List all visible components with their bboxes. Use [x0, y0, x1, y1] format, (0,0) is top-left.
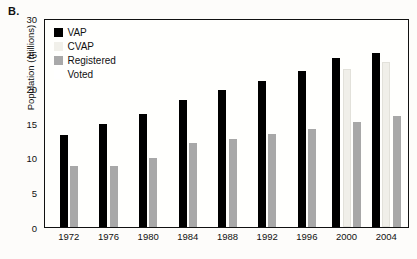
bar-registered-1996 [308, 129, 316, 227]
bar-registered-1980 [149, 158, 157, 227]
y-tick-label: 15 [0, 118, 44, 129]
legend-item-vap: VAP [54, 26, 116, 39]
bar-vap-2004 [372, 53, 380, 227]
bar-registered-1992 [268, 134, 276, 227]
y-tick-label: 5 [0, 188, 44, 199]
legend-label: Registered [68, 55, 116, 66]
x-tick-label: 1992 [257, 231, 278, 242]
x-tick-label: 2004 [376, 231, 397, 242]
x-tick-label: 1972 [58, 231, 79, 242]
legend-label: VAP [68, 27, 87, 38]
bar-group [287, 20, 327, 227]
bar-registered-2004 [393, 116, 401, 227]
bar-vap-1976 [99, 124, 107, 227]
legend-item-registered: Registered [54, 54, 116, 67]
chart-legend: VAPCVAPRegisteredVoted [54, 26, 116, 81]
bar-vap-1988 [218, 90, 226, 227]
bar-group [366, 20, 406, 227]
legend-label: Voted [68, 69, 94, 80]
bar-group [247, 20, 287, 227]
legend-label: CVAP [68, 41, 95, 52]
x-tick-label: 1996 [296, 231, 317, 242]
y-tick-label: 0 [0, 223, 44, 234]
y-tick-label: 10 [0, 153, 44, 164]
bar-vap-1980 [139, 114, 147, 227]
x-tick-label: 1988 [217, 231, 238, 242]
bar-cvap-2004 [382, 62, 390, 227]
bar-vap-1996 [298, 71, 306, 227]
x-tick-label: 1984 [177, 231, 198, 242]
bar-vap-2000 [332, 58, 340, 227]
legend-swatch-voted-icon [54, 70, 63, 79]
bar-group [208, 20, 248, 227]
x-tick-label: 1980 [138, 231, 159, 242]
bar-vap-1992 [258, 81, 266, 227]
legend-swatch-registered-icon [54, 56, 63, 65]
y-tick-label: 30 [0, 14, 44, 25]
bar-group [168, 20, 208, 227]
figure-panel-b: B. Population (millions) 051015202530 19… [0, 0, 417, 259]
bar-registered-1984 [189, 143, 197, 227]
bar-registered-1976 [110, 166, 118, 227]
bar-registered-1972 [70, 166, 78, 227]
legend-item-voted: Voted [54, 68, 116, 81]
legend-item-cvap: CVAP [54, 40, 116, 53]
bar-vap-1984 [179, 100, 187, 227]
y-tick-label: 25 [0, 48, 44, 59]
bar-group [327, 20, 367, 227]
bar-group [128, 20, 168, 227]
bar-cvap-2000 [343, 69, 351, 227]
x-tick-label: 2000 [336, 231, 357, 242]
bar-registered-1988 [229, 139, 237, 227]
bar-registered-2000 [353, 122, 361, 227]
x-tick-label: 1976 [98, 231, 119, 242]
bar-vap-1972 [60, 135, 68, 227]
legend-swatch-cvap-icon [54, 42, 63, 51]
legend-swatch-vap-icon [54, 28, 63, 37]
y-tick-label: 20 [0, 83, 44, 94]
